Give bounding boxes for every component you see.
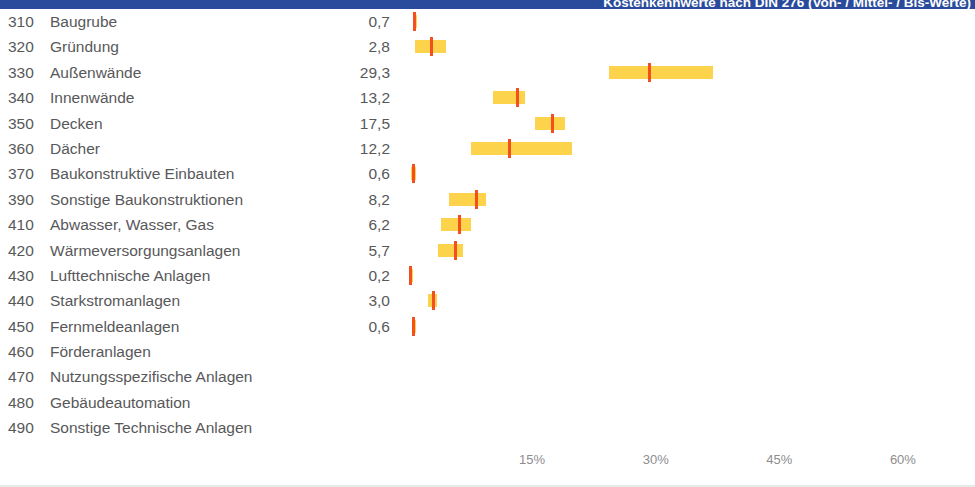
median-marker bbox=[508, 139, 511, 158]
row-label: Innenwände bbox=[50, 87, 134, 108]
row-label: Gebäudeautomation bbox=[50, 392, 190, 413]
row-value: 0,6 bbox=[318, 316, 390, 337]
row-value: 3,0 bbox=[318, 290, 390, 311]
row-label: Förderanlagen bbox=[50, 341, 151, 362]
row-code: 330 bbox=[8, 62, 46, 83]
row-code: 370 bbox=[8, 163, 46, 184]
header-bar: Kostenkennwerte nach DIN 276 (Von- / Mit… bbox=[0, 0, 975, 9]
row-code: 490 bbox=[8, 417, 46, 438]
chart-container: Kostenkennwerte nach DIN 276 (Von- / Mit… bbox=[0, 0, 975, 487]
table-row: 350Decken17,5 bbox=[0, 111, 975, 136]
row-label: Lufttechnische Anlagen bbox=[50, 265, 210, 286]
table-row: 480Gebäudeautomation bbox=[0, 390, 975, 415]
range-bar bbox=[471, 142, 572, 155]
median-marker bbox=[413, 12, 416, 31]
median-marker bbox=[648, 63, 651, 82]
median-marker bbox=[412, 317, 415, 336]
table-row: 410Abwasser, Wasser, Gas6,2 bbox=[0, 212, 975, 237]
row-label: Dächer bbox=[50, 138, 100, 159]
row-value: 13,2 bbox=[318, 87, 390, 108]
range-bar bbox=[449, 193, 486, 206]
row-code: 340 bbox=[8, 87, 46, 108]
table-row: 320Gründung2,8 bbox=[0, 34, 975, 59]
median-marker bbox=[475, 190, 478, 209]
median-marker bbox=[432, 291, 435, 310]
median-marker bbox=[454, 241, 457, 260]
row-label: Sonstige Technische Anlagen bbox=[50, 417, 252, 438]
row-plot bbox=[0, 34, 975, 59]
row-code: 350 bbox=[8, 113, 46, 134]
table-row: 330Außenwände29,3 bbox=[0, 60, 975, 85]
range-bar bbox=[428, 294, 436, 307]
row-label: Sonstige Baukonstruktionen bbox=[50, 189, 243, 210]
row-code: 420 bbox=[8, 240, 46, 261]
median-marker bbox=[458, 215, 461, 234]
range-bar bbox=[609, 66, 713, 79]
row-code: 460 bbox=[8, 341, 46, 362]
row-value: 5,7 bbox=[318, 240, 390, 261]
row-code: 430 bbox=[8, 265, 46, 286]
table-row: 470Nutzungsspezifische Anlagen bbox=[0, 364, 975, 389]
row-label: Decken bbox=[50, 113, 103, 134]
range-bar bbox=[438, 244, 463, 257]
table-row: 360Dächer12,2 bbox=[0, 136, 975, 161]
table-row: 420Wärmeversorgungsanlagen5,7 bbox=[0, 238, 975, 263]
table-row: 430Lufttechnische Anlagen0,2 bbox=[0, 263, 975, 288]
category-row-list: 310Baugrube0,7320Gründung2,8330Außenwänd… bbox=[0, 9, 975, 441]
row-value: 0,6 bbox=[318, 163, 390, 184]
median-marker bbox=[412, 164, 415, 183]
table-row: 440Starkstromanlagen3,0 bbox=[0, 288, 975, 313]
table-row: 460Förderanlagen bbox=[0, 339, 975, 364]
row-value: 8,2 bbox=[318, 189, 390, 210]
x-axis: 15%30%45%60% bbox=[0, 452, 975, 487]
row-plot bbox=[0, 111, 975, 136]
row-plot bbox=[0, 9, 975, 34]
row-value: 12,2 bbox=[318, 138, 390, 159]
median-marker bbox=[430, 37, 433, 56]
row-value: 17,5 bbox=[318, 113, 390, 134]
row-label: Fernmeldeanlagen bbox=[50, 316, 179, 337]
range-bar bbox=[412, 320, 416, 333]
row-label: Starkstromanlagen bbox=[50, 290, 180, 311]
row-value: 0,2 bbox=[318, 265, 390, 286]
median-marker bbox=[409, 266, 412, 285]
table-row: 390Sonstige Baukonstruktionen8,2 bbox=[0, 187, 975, 212]
row-label: Nutzungsspezifische Anlagen bbox=[50, 366, 253, 387]
row-label: Abwasser, Wasser, Gas bbox=[50, 214, 214, 235]
range-bar bbox=[415, 40, 445, 53]
median-marker bbox=[516, 88, 519, 107]
row-code: 410 bbox=[8, 214, 46, 235]
median-marker bbox=[551, 114, 554, 133]
axis-tick-label: 15% bbox=[519, 452, 545, 467]
range-bar bbox=[413, 15, 417, 28]
row-value: 29,3 bbox=[318, 62, 390, 83]
row-code: 310 bbox=[8, 11, 46, 32]
table-row: 490Sonstige Technische Anlagen bbox=[0, 415, 975, 440]
row-label: Gründung bbox=[50, 36, 119, 57]
row-plot bbox=[0, 60, 975, 85]
row-plot bbox=[0, 136, 975, 161]
row-code: 440 bbox=[8, 290, 46, 311]
table-row: 370Baukonstruktive Einbauten0,6 bbox=[0, 161, 975, 186]
axis-tick-label: 30% bbox=[643, 452, 669, 467]
row-code: 470 bbox=[8, 366, 46, 387]
range-bar bbox=[493, 91, 525, 104]
row-label: Wärmeversorgungsanlagen bbox=[50, 240, 240, 261]
row-code: 360 bbox=[8, 138, 46, 159]
page-title: Kostenkennwerte nach DIN 276 (Von- / Mit… bbox=[603, 0, 971, 9]
range-bar bbox=[411, 167, 416, 180]
axis-tick-label: 60% bbox=[890, 452, 916, 467]
row-code: 390 bbox=[8, 189, 46, 210]
row-code: 480 bbox=[8, 392, 46, 413]
row-value: 6,2 bbox=[318, 214, 390, 235]
row-label: Baugrube bbox=[50, 11, 117, 32]
axis-tick-label: 45% bbox=[766, 452, 792, 467]
table-row: 450Fernmeldeanlagen0,6 bbox=[0, 314, 975, 339]
range-bar bbox=[409, 269, 413, 282]
row-code: 450 bbox=[8, 316, 46, 337]
table-row: 310Baugrube0,7 bbox=[0, 9, 975, 34]
row-value: 2,8 bbox=[318, 36, 390, 57]
range-bar bbox=[441, 218, 471, 231]
row-label: Baukonstruktive Einbauten bbox=[50, 163, 234, 184]
row-plot bbox=[0, 85, 975, 110]
